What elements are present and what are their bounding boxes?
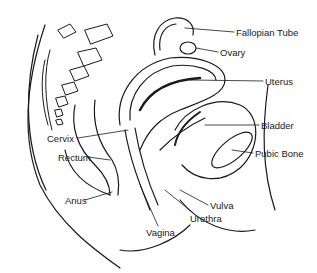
label-ovary: Ovary: [220, 48, 245, 58]
label-pubic-bone: Pubic Bone: [255, 149, 304, 159]
ovary-shape: [180, 42, 196, 54]
spine: [42, 24, 113, 130]
label-vulva: Vulva: [210, 201, 233, 211]
label-urethra: Urethra: [190, 214, 222, 224]
label-fallopian-tube: Fallopian Tube: [236, 28, 298, 38]
anatomy-diagram: Fallopian Tube Ovary Uterus Bladder Pubi…: [0, 0, 317, 273]
label-bladder: Bladder: [261, 121, 294, 131]
label-rectum: Rectum: [58, 153, 91, 163]
label-vagina: Vagina: [146, 228, 175, 238]
label-uterus: Uterus: [265, 77, 293, 87]
body-outline-back: [28, 25, 120, 268]
label-cervix: Cervix: [47, 134, 74, 144]
label-anus: Anus: [65, 196, 87, 206]
